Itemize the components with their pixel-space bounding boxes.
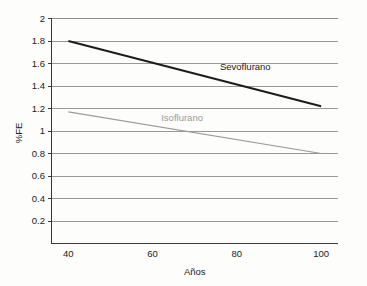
y-axis-tick-labels-group: 0.20.40.60.811.21.41.61.82 [32, 13, 45, 227]
y-axis-tick-label: 1.6 [32, 58, 45, 69]
y-axis-tick-label: 0.6 [32, 170, 45, 181]
x-axis-tick-label: 60 [147, 248, 158, 259]
x-axis-tick-label: 40 [63, 248, 74, 259]
y-axis-tick-label: 0.8 [32, 148, 45, 159]
y-axis-tick-label: 1.8 [32, 35, 45, 46]
y-axis-tick-label: 2 [40, 13, 45, 24]
line-chart: 0.20.40.60.811.21.41.61.82 406080100 Sev… [0, 0, 367, 286]
y-axis-tick-label: 1.4 [32, 80, 45, 91]
chart-container: 0.20.40.60.811.21.41.61.82 406080100 Sev… [0, 0, 367, 286]
series-lines-group [68, 41, 321, 154]
x-axis-tick-label: 80 [232, 248, 243, 259]
series-labels-group: SevofluranoIsoflurano [161, 61, 270, 123]
y-axis-tick-label: 1.2 [32, 103, 45, 114]
y-axis-tick-label: 0.2 [32, 215, 45, 226]
series-label-sevoflurano: Sevoflurano [220, 61, 271, 72]
y-axis-tick-label: 0.4 [32, 193, 45, 204]
y-axis-title: %FE [13, 123, 24, 144]
x-axis-tick-labels-group: 406080100 [63, 248, 329, 259]
series-label-isoflurano: Isoflurano [161, 112, 203, 123]
x-axis-tick-label: 100 [313, 248, 329, 259]
y-axis-tick-label: 1 [40, 125, 45, 136]
series-line-sevoflurano [68, 41, 321, 106]
x-axis-title: Años [184, 266, 206, 277]
